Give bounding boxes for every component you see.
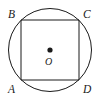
vertex-label-d: D bbox=[83, 84, 91, 96]
vertex-label-a: A bbox=[8, 84, 15, 96]
center-point-dot bbox=[47, 47, 52, 52]
vertex-label-c: C bbox=[83, 9, 91, 21]
vertex-label-b: B bbox=[8, 9, 15, 21]
center-label-o: O bbox=[45, 57, 52, 67]
geometry-figure: B C A D O bbox=[0, 0, 101, 107]
